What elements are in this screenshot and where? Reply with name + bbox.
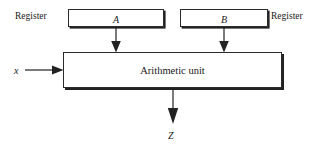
diagram-canvas: Register Register A B Arithmetic unit <box>0 0 325 154</box>
arrow-unit-to-z-output <box>168 88 178 124</box>
arrow-register-a-to-unit <box>111 27 121 53</box>
z-output-label: Z <box>168 131 174 141</box>
arrow-register-b-to-unit <box>219 27 229 53</box>
arrow-x-input-to-unit <box>25 66 64 75</box>
x-input-label: x <box>14 66 18 76</box>
connector-overlay <box>0 0 325 154</box>
